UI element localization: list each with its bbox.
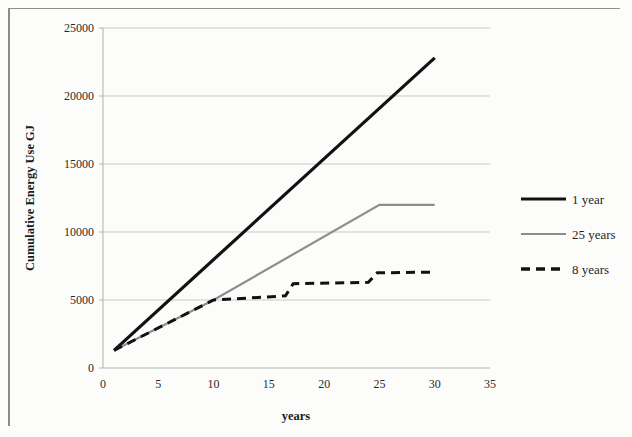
x-tick-label: 5 [155, 377, 161, 391]
scanned-page: 0500010000150002000025000 05101520253035… [0, 0, 632, 437]
series-line-25-years [114, 205, 435, 351]
y-tick-label: 20000 [64, 89, 94, 103]
series-line-8-years [114, 272, 435, 350]
gridlines [103, 28, 490, 300]
chart-svg: 0500010000150002000025000 05101520253035… [0, 0, 632, 437]
x-tick-labels: 05101520253035 [100, 377, 496, 391]
x-tick-label: 35 [484, 377, 496, 391]
y-tick-label: 15000 [64, 157, 94, 171]
x-tick-label: 25 [373, 377, 385, 391]
y-tick-label: 5000 [70, 293, 94, 307]
y-tick-labels: 0500010000150002000025000 [64, 21, 103, 375]
legend: 1 year25 years8 years [521, 192, 616, 277]
x-tick-label: 15 [263, 377, 275, 391]
x-tick-label: 20 [318, 377, 330, 391]
x-tick-label: 30 [429, 377, 441, 391]
data-series-group [114, 58, 435, 350]
legend-label-8-years: 8 years [572, 262, 609, 277]
line-chart: 0500010000150002000025000 05101520253035… [0, 0, 632, 437]
legend-label-25-years: 25 years [572, 227, 616, 242]
y-tick-label: 10000 [64, 225, 94, 239]
legend-label-1-year: 1 year [572, 192, 605, 207]
x-axis-title: years [282, 409, 311, 423]
y-tick-label: 0 [88, 361, 94, 375]
x-tick-label: 10 [208, 377, 220, 391]
y-axis-title: Cumulative Energy Use GJ [23, 125, 37, 271]
y-tick-label: 25000 [64, 21, 94, 35]
x-tick-label: 0 [100, 377, 106, 391]
